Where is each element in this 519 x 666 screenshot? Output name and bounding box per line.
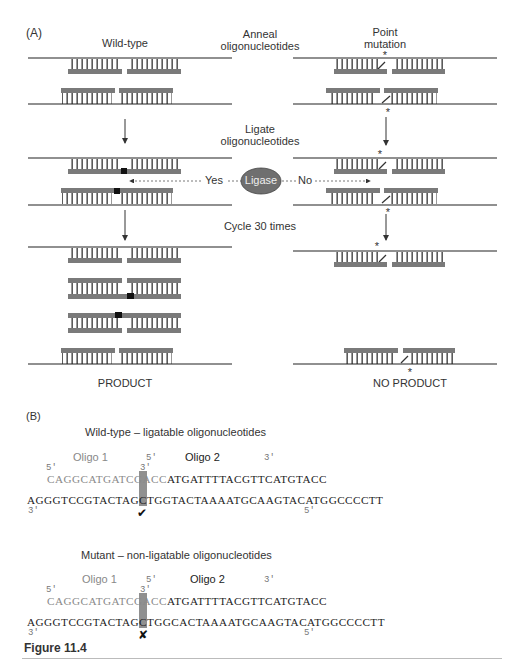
- panel-b-label: (B): [26, 410, 41, 422]
- mut-oligo1-seq: CAGGCATGATCGACC: [47, 595, 167, 607]
- mut-anneal-top-duplex: [293, 58, 497, 74]
- yes-label: Yes: [205, 174, 223, 186]
- wt-product-duplex: [28, 348, 232, 364]
- mut-template-seq: AGGGTCCGTACTAGCTGGCACTAAAATGCAAGTACATGGC…: [27, 616, 385, 628]
- wt-oligo2-5prime: 5': [146, 453, 157, 463]
- wt-oligo2-seq: ATGATTTTACGTTCATGTACC: [167, 473, 327, 485]
- mut-template-5prime: 5': [304, 628, 315, 638]
- mutation-star-1: *: [375, 49, 395, 61]
- no-label: No: [298, 174, 312, 186]
- mut-cycle-duplex: [293, 251, 497, 267]
- point-mutation-line1: Point: [350, 26, 420, 38]
- check-icon: ✔: [137, 506, 147, 520]
- wt-cycle-duplex-3: [68, 312, 181, 333]
- mutation-star-4: *: [378, 206, 398, 218]
- mutation-star-5: *: [367, 240, 387, 252]
- wt-oligo1-5prime: 5': [46, 463, 57, 473]
- mut-anneal-bottom-duplex: [293, 88, 497, 104]
- wt-template-seq: AGGGTCCGTACTAGCTGGTACTAAAATGCAAGTACATGGC…: [27, 494, 383, 506]
- wt-cycle-duplex-2: [68, 278, 181, 299]
- wt-oligo2-label: Oligo 2: [185, 451, 220, 463]
- mut-template-3prime: 3': [28, 628, 39, 638]
- mut-oligo2-label: Oligo 2: [190, 573, 225, 585]
- mut-oligo-sequences: CAGGCATGATCGACCATGATTTTACGTTCATGTACC: [47, 595, 327, 607]
- wt-anneal-bottom-duplex: [28, 88, 232, 104]
- wt-anneal-top-duplex: [28, 58, 232, 74]
- wt-ligated-bottom-duplex: [28, 188, 232, 205]
- wild-type-label: Wild-type: [80, 37, 170, 49]
- mut-oligo2-5prime: 5': [146, 575, 157, 585]
- mutation-star-3: *: [370, 148, 390, 160]
- step-anneal-line2: oligonucleotides: [205, 40, 315, 52]
- product-label: PRODUCT: [80, 377, 170, 389]
- wt-template-5prime: 5': [304, 506, 315, 516]
- wt-oligo-sequences: CAGGCATGATCGACCATGATTTTACGTTCATGTACC: [47, 473, 327, 485]
- ligase-label: Ligase: [241, 174, 281, 186]
- mutation-star-2: *: [378, 106, 398, 118]
- panel-a-diagram: [0, 0, 519, 666]
- mut-title: Mutant – non-ligatable oligonucleotides: [81, 549, 272, 561]
- wt-ligated-top-duplex: [28, 158, 232, 174]
- mut-oligo1-3prime: 3': [140, 585, 151, 595]
- mut-ligate-bottom-duplex: [293, 188, 497, 205]
- no-product-label: NO PRODUCT: [360, 377, 460, 389]
- cross-icon: ✘: [138, 628, 148, 642]
- panel-a-label: (A): [26, 26, 42, 40]
- mut-ligate-top-duplex: [293, 158, 497, 174]
- step-anneal-line1: Anneal: [205, 28, 315, 40]
- wt-oligo2-3prime: 3': [264, 453, 275, 463]
- wt-oligo1-seq: CAGGCATGATCGACC: [47, 473, 167, 485]
- figure-caption: Figure 11.4: [24, 641, 87, 655]
- wt-oligo1-3prime: 3': [140, 463, 151, 473]
- step-ligate-line2: oligonucleotides: [205, 135, 315, 147]
- wt-title: Wild-type – ligatable oligonucleotides: [85, 426, 266, 438]
- wt-oligo1-label: Oligo 1: [73, 451, 108, 463]
- step-ligate-line1: Ligate: [205, 123, 315, 135]
- step-cycle: Cycle 30 times: [210, 220, 310, 232]
- mut-oligo2-seq: ATGATTTTACGTTCATGTACC: [167, 595, 327, 607]
- wt-template-3prime: 3': [28, 506, 39, 516]
- caption-divider: [22, 658, 502, 659]
- wt-cycle-duplex-1: [28, 247, 232, 263]
- mut-no-product-duplex: [293, 348, 497, 364]
- mut-oligo1-label: Oligo 1: [82, 573, 117, 585]
- mut-oligo1-5prime: 5': [46, 585, 57, 595]
- mut-oligo2-3prime: 3': [264, 575, 275, 585]
